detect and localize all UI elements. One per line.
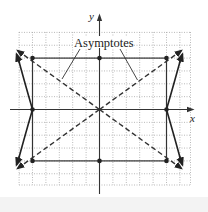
vertex-left [30,107,35,112]
corner-top-right [164,56,169,61]
leader-line-right [120,49,138,80]
leader-line-left [62,49,80,79]
corner-bottom-left [30,159,35,164]
hyperbola-diagram: x y Asymptotes [0,0,208,212]
x-axis-label: x [189,112,195,124]
vertex-right [164,107,169,112]
co-vertex-top [97,56,102,61]
co-vertex-bottom [97,159,102,164]
corner-bottom-right [164,159,169,164]
y-axis-label: y [88,10,94,22]
asymptotes-label: Asymptotes [74,36,134,50]
corner-top-left [30,56,35,61]
